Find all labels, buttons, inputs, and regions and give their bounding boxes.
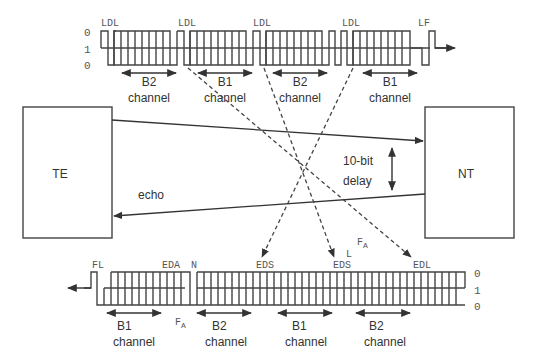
- marker-ldl: LDL: [342, 18, 360, 29]
- level-label: 1: [84, 44, 91, 56]
- channel-label: B1: [292, 319, 307, 333]
- marker-lf: LF: [418, 18, 430, 29]
- channel-label: B2: [369, 319, 384, 333]
- te-label: TE: [52, 167, 67, 181]
- channel-label: B1: [117, 319, 132, 333]
- fa-label: FA: [175, 317, 186, 330]
- marker-eds: EDS: [333, 260, 351, 271]
- channel-sub: channel: [204, 91, 246, 105]
- level-label: 0: [84, 27, 91, 39]
- isdn-frame-diagram: 0 1 0 LDL LDL LDL LDL LF: [0, 0, 539, 363]
- marker-n: N: [191, 260, 197, 271]
- channel-sub: channel: [205, 335, 247, 349]
- bottom-waveform: [84, 272, 465, 305]
- marker-eds: EDS: [256, 260, 274, 271]
- level-label: 0: [84, 60, 91, 72]
- level-label: 0: [474, 301, 481, 313]
- channel-sub: channel: [128, 91, 170, 105]
- channel-label: B2: [212, 319, 227, 333]
- channel-sub: channel: [113, 335, 155, 349]
- channel-label: B2: [293, 75, 308, 89]
- te-to-nt-signal-arrow: [112, 120, 423, 141]
- channel-sub: channel: [279, 91, 321, 105]
- level-label: 0: [474, 268, 481, 280]
- level-label: 1: [474, 285, 481, 297]
- top-waveform: [101, 31, 452, 65]
- delay-label-line1: 10-bit: [343, 154, 374, 168]
- marker-eda: EDA: [162, 260, 180, 271]
- marker-ldl: LDL: [178, 18, 196, 29]
- channel-label: B2: [142, 75, 157, 89]
- top-level-labels: 0 1 0: [84, 27, 91, 72]
- channel-label: B1: [218, 75, 233, 89]
- channel-sub: channel: [364, 335, 406, 349]
- fa-label: FA: [357, 237, 368, 250]
- nt-label: NT: [458, 167, 475, 181]
- channel-sub: channel: [285, 335, 327, 349]
- marker-l: L: [346, 249, 352, 260]
- echo-label: echo: [138, 188, 164, 202]
- delay-label-line2: delay: [343, 174, 372, 188]
- marker-fl: FL: [92, 260, 104, 271]
- marker-ldl: LDL: [253, 18, 271, 29]
- marker-ldl: LDL: [101, 18, 119, 29]
- marker-edl: EDL: [413, 260, 431, 271]
- channel-label: B1: [383, 75, 398, 89]
- channel-sub: channel: [369, 91, 411, 105]
